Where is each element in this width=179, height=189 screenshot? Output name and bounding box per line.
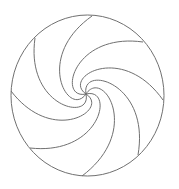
spiral-arm-4 (86, 80, 140, 155)
spiral-diagram (0, 0, 179, 189)
spiral-arms (11, 16, 163, 176)
spiral-graphic (0, 0, 179, 189)
spiral-arm-6 (30, 93, 100, 148)
spiral-arm-7 (11, 91, 92, 120)
spiral-arm-3 (80, 68, 163, 100)
spiral-arm-1 (60, 16, 92, 100)
spiral-arm-8 (34, 38, 86, 107)
